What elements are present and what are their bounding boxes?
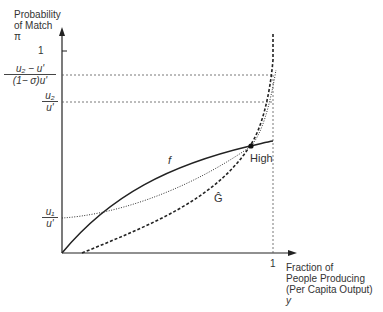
curve-dotted xyxy=(62,70,276,218)
curve-g-hat xyxy=(82,34,273,253)
high-equilibrium-point xyxy=(248,143,253,148)
diagram-canvas xyxy=(0,0,383,312)
y-axis-arrow-icon xyxy=(59,27,65,36)
x-axis-arrow-icon xyxy=(288,250,297,256)
